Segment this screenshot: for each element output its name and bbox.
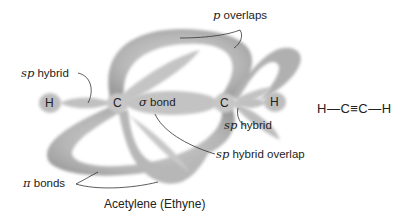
label-sp-symbol: sp <box>216 147 229 161</box>
label-sp-hybrid-right-text: hybrid <box>240 119 271 131</box>
label-sp-hybrid-overlap-text: hybrid overlap <box>232 148 304 160</box>
label-sp-hybrid-left: sp hybrid <box>21 68 69 80</box>
diagram-title: Acetylene (Ethyne) <box>104 198 205 210</box>
atom-h-left: H <box>45 97 54 109</box>
atom-c-right: C <box>220 97 229 109</box>
label-p-symbol: p <box>213 8 220 22</box>
label-sigma-bond-text: bond <box>150 96 176 108</box>
atom-h-right: H <box>270 96 279 108</box>
label-pi-symbol: π <box>23 176 31 190</box>
label-sigma-bond: σ bond <box>139 97 176 109</box>
label-p-overlaps-text: overlaps <box>224 9 267 21</box>
label-sigma-symbol: σ <box>139 95 147 109</box>
structural-formula: H—C≡C—H <box>317 101 392 116</box>
pi-bond-lower-arch <box>47 106 235 184</box>
label-pi-bonds-text: bonds <box>34 177 65 189</box>
label-p-overlaps: p overlaps <box>213 10 267 22</box>
label-sp-hybrid-right: sp hybrid <box>224 120 272 132</box>
label-sp-hybrid-left-text: hybrid <box>37 67 68 79</box>
label-sp-symbol: sp <box>21 66 34 80</box>
label-sp-symbol: sp <box>224 118 237 132</box>
label-pi-bonds: π bonds <box>23 178 65 190</box>
label-sp-hybrid-overlap: sp hybrid overlap <box>216 149 305 161</box>
atom-c-left: C <box>113 97 122 109</box>
